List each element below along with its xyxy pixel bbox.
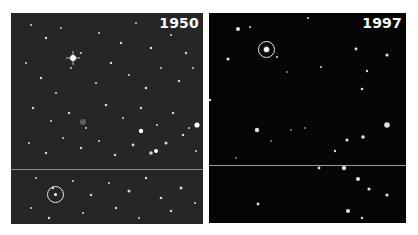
year-label-1997: 1997 [362, 15, 402, 31]
scan-line [11, 169, 203, 170]
star-field-1950 [11, 13, 203, 224]
star-field-1997-panel: 1997 [209, 13, 406, 223]
scan-line [209, 165, 406, 166]
star-field-1997 [209, 13, 406, 223]
year-label-1950: 1950 [159, 15, 199, 31]
star-field-1950-panel: 1950 [11, 13, 203, 224]
target-star-1950 [54, 193, 57, 196]
target-star-1997 [264, 47, 269, 52]
